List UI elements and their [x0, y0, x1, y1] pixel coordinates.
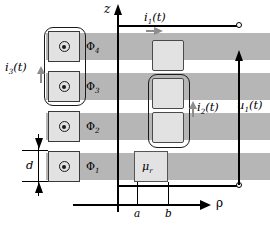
- d-dimension-arrowhead-top: [35, 138, 43, 149]
- i2-arrowhead: [189, 101, 197, 109]
- current-out-of-page-icon: [59, 121, 70, 132]
- i1-arrow-shaft: [146, 30, 155, 32]
- d-dimension-label: d: [26, 158, 33, 172]
- d-extension-top: [22, 150, 48, 151]
- figure-canvas: z ρ a b μr Φ4 Φ3 Φ2 Φ1: [0, 0, 270, 226]
- i1-arrowhead: [154, 27, 163, 35]
- i2-label: i2(t): [197, 100, 219, 116]
- coil-box-1: [48, 151, 80, 182]
- top-lead-wire: [117, 25, 238, 27]
- dot-center: [62, 125, 66, 129]
- left-winding-bracket: [44, 27, 86, 106]
- flux-label-2: Φ2: [86, 120, 100, 135]
- u1-arrowhead: [235, 50, 243, 61]
- right-coil-box-upper: [152, 40, 184, 71]
- mu-r-label: μr: [142, 160, 152, 175]
- dot-center: [62, 165, 66, 169]
- flux-label-4: Φ4: [86, 40, 100, 55]
- i3-arrowhead: [37, 66, 45, 74]
- rho-axis-arrowhead: [200, 200, 211, 210]
- i3-arrow-shaft: [40, 73, 42, 83]
- current-out-of-page-icon: [59, 161, 70, 172]
- right-winding-bracket: [148, 74, 190, 148]
- d-dimension-arrowhead-bottom: [35, 182, 43, 193]
- u1-arrow-shaft: [238, 60, 240, 185]
- tick-label-a: a: [134, 207, 140, 219]
- z-axis-line: [117, 14, 119, 212]
- u1-label: u1(t): [237, 98, 263, 114]
- i2-arrow-shaft: [192, 108, 194, 117]
- flux-label-3: Φ3: [86, 80, 100, 95]
- z-axis-label: z: [104, 2, 110, 16]
- tick-label-b: b: [165, 207, 172, 219]
- i3-label: i3(t): [5, 60, 27, 76]
- bottom-lead-wire: [117, 185, 238, 187]
- top-terminal[interactable]: [236, 22, 242, 28]
- d-extension-bottom: [22, 181, 48, 182]
- i1-label: i1(t): [144, 10, 166, 26]
- coil-box-2: [48, 111, 80, 142]
- rho-axis-label: ρ: [216, 196, 223, 210]
- z-axis-arrowhead: [114, 4, 122, 15]
- flux-label-1: Φ1: [86, 160, 100, 175]
